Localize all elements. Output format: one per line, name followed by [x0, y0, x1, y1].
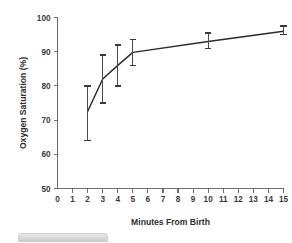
data-line	[88, 31, 284, 111]
caption-bar[interactable]	[18, 233, 108, 242]
x-tick-label: 3	[100, 195, 105, 204]
x-tick-label: 8	[176, 195, 181, 204]
x-tick-label: 7	[161, 195, 166, 204]
y-tick-label: 50	[41, 185, 51, 194]
x-tick-label: 0	[55, 195, 60, 204]
x-axis-title: Minutes From Birth	[131, 217, 210, 227]
plot-area: 50607080901000123456789101112131415Minut…	[18, 14, 288, 228]
y-tick-label: 100	[37, 14, 51, 23]
oxygen-saturation-line-chart: 50607080901000123456789101112131415Minut…	[0, 0, 292, 243]
y-tick-label: 70	[41, 116, 51, 125]
x-tick-label: 12	[234, 195, 244, 204]
x-tick-label: 10	[204, 195, 214, 204]
x-tick-label: 6	[146, 195, 151, 204]
x-tick-label: 11	[219, 195, 228, 204]
x-tick-label: 14	[264, 195, 274, 204]
x-tick-label: 9	[191, 195, 196, 204]
y-tick-label: 60	[41, 150, 51, 159]
y-tick-label: 80	[41, 82, 51, 91]
x-tick-label: 1	[70, 195, 75, 204]
x-tick-label: 2	[85, 195, 90, 204]
x-tick-label: 5	[131, 195, 136, 204]
y-axis-title: Oxygen Saturation (%)	[18, 57, 28, 149]
x-tick-label: 15	[279, 195, 289, 204]
y-tick-label: 90	[41, 48, 51, 57]
x-tick-label: 4	[115, 195, 120, 204]
chart-figure: 50607080901000123456789101112131415Minut…	[0, 0, 292, 243]
x-tick-label: 13	[249, 195, 259, 204]
